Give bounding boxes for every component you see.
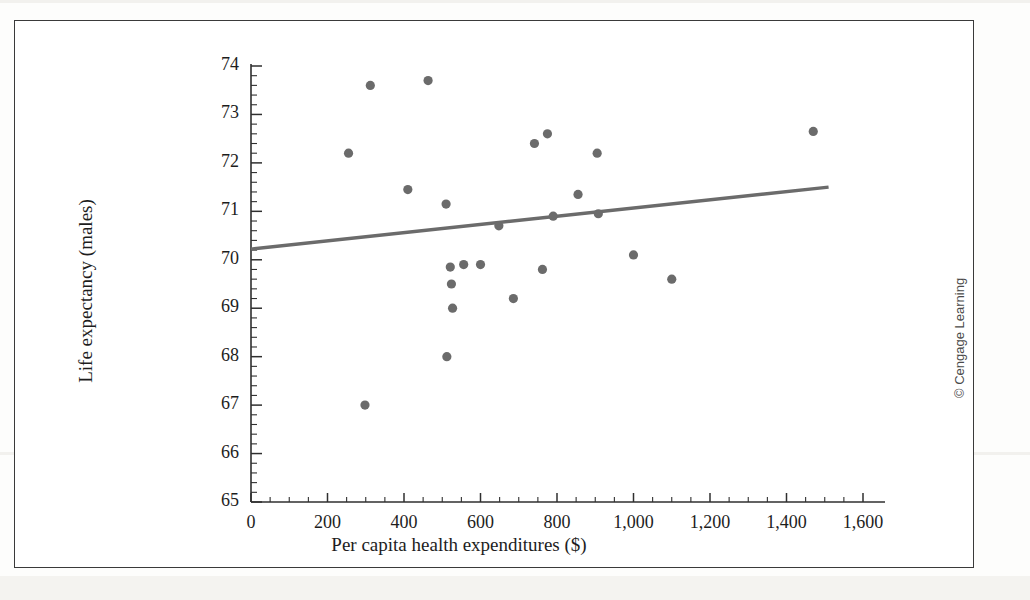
y-axis-tick-label: 73 xyxy=(179,102,239,123)
x-axis-tick-label: 0 xyxy=(211,512,291,533)
data-point xyxy=(446,262,455,271)
y-axis-tick-label: 68 xyxy=(179,345,239,366)
data-point xyxy=(530,139,539,148)
data-point xyxy=(573,190,582,199)
x-axis-tick-label: 200 xyxy=(288,512,368,533)
data-point xyxy=(448,304,457,313)
y-axis-tick-label: 74 xyxy=(179,54,239,75)
x-axis-tick-label: 1,000 xyxy=(594,512,674,533)
data-point xyxy=(442,352,451,361)
x-axis-title-text: Per capita health expenditures ($) xyxy=(331,534,586,556)
y-axis-title: Life expectancy (males) xyxy=(75,131,97,451)
data-point xyxy=(366,81,375,90)
x-axis-tick-label: 400 xyxy=(364,512,444,533)
scatter-plot xyxy=(0,0,1030,600)
data-point xyxy=(441,199,450,208)
data-point xyxy=(494,221,503,230)
data-point xyxy=(423,76,432,85)
data-point xyxy=(549,212,558,221)
y-axis-tick-label: 66 xyxy=(179,442,239,463)
y-axis-tick-label: 71 xyxy=(179,199,239,220)
data-point xyxy=(629,250,638,259)
y-axis-tick-label: 69 xyxy=(179,296,239,317)
y-axis-tick-label: 67 xyxy=(179,393,239,414)
x-axis-tick-label: 1,600 xyxy=(823,512,903,533)
data-point xyxy=(543,129,552,138)
data-point xyxy=(509,294,518,303)
y-axis-tick-label: 65 xyxy=(179,490,239,511)
data-point xyxy=(459,260,468,269)
x-axis-tick-label: 800 xyxy=(517,512,597,533)
x-axis-tick-label: 1,400 xyxy=(747,512,827,533)
data-point xyxy=(360,401,369,410)
data-point xyxy=(809,127,818,136)
data-point xyxy=(538,265,547,274)
y-axis-tick-label: 72 xyxy=(179,151,239,172)
data-point xyxy=(667,275,676,284)
data-point xyxy=(344,149,353,158)
regression-line xyxy=(251,187,829,249)
data-point xyxy=(447,279,456,288)
x-axis-title: Per capita health expenditures ($) xyxy=(0,534,1030,556)
y-axis-tick-label: 70 xyxy=(179,248,239,269)
data-point xyxy=(476,260,485,269)
x-axis-tick-label: 1,200 xyxy=(670,512,750,533)
figure-container: Per capita health expenditures ($) Life … xyxy=(0,0,1030,600)
copyright-credit: © Cengage Learning xyxy=(952,198,967,398)
data-point xyxy=(593,149,602,158)
data-point xyxy=(403,185,412,194)
data-point xyxy=(594,209,603,218)
x-axis-tick-label: 600 xyxy=(441,512,521,533)
